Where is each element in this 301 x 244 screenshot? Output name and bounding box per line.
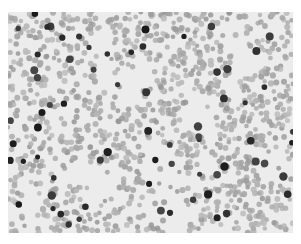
- cell-field: [8, 12, 293, 233]
- blood-smear-micrograph: [8, 12, 293, 233]
